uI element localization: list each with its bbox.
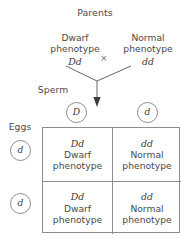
parent-right-genotype: dd [111,56,185,67]
punnett-cell-1-0: Dd Dwarf phenotype [43,181,112,234]
punnett-cell-1-1-genotype: dd [141,191,153,202]
punnett-cell-1-1: dd Normal phenotype [112,181,181,234]
punnett-cell-0-0: Dd Dwarf phenotype [43,128,112,181]
punnett-cell-0-0-phenotype-line1: Dwarf [64,149,91,160]
punnett-grid: Dd Dwarf phenotype dd Normal phenotype D… [42,127,180,233]
punnett-square-diagram: Parents Dwarf phenotype Dd Normal phenot… [0,0,190,245]
punnett-cell-0-0-genotype: Dd [71,138,85,149]
parent-right: Normal phenotype dd [111,32,185,67]
punnett-cell-0-1-phenotype-line1: Normal [130,149,163,160]
punnett-cell-0-1-phenotype-line2: phenotype [122,160,171,171]
punnett-cell-1-0-phenotype-line2: phenotype [53,214,102,225]
parent-right-phenotype-line1: Normal [111,32,185,43]
punnett-cell-0-0-phenotype-line2: phenotype [53,160,102,171]
sperm-gamete-0-label: D [73,107,80,116]
sperm-gamete-1-label: d [145,107,151,116]
egg-gamete-1-label: d [18,198,24,207]
punnett-cell-1-0-phenotype-line1: Dwarf [64,203,91,214]
parent-left-phenotype-line1: Dwarf [38,32,112,43]
sperm-gamete-1: d [137,102,158,123]
punnett-cell-1-0-genotype: Dd [71,191,85,202]
diagram-title: Parents [0,8,190,19]
cross-symbol: × [96,53,112,64]
sperm-gamete-0: D [66,102,87,123]
punnett-cell-1-1-phenotype-line1: Normal [130,203,163,214]
punnett-cell-0-1: dd Normal phenotype [112,128,181,181]
punnett-cell-0-1-genotype: dd [141,138,153,149]
egg-gamete-1: d [10,193,31,214]
parent-right-phenotype-line2: phenotype [111,43,185,54]
egg-gamete-0: d [10,140,31,161]
sperm-label: Sperm [30,85,76,96]
punnett-cell-1-1-phenotype-line2: phenotype [122,214,171,225]
eggs-label: Eggs [1,122,39,133]
egg-gamete-0-label: d [18,145,24,154]
